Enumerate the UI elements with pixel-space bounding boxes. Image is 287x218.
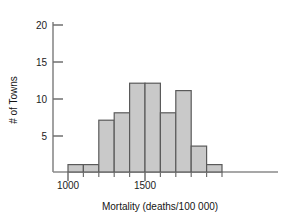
x-axis-title: Mortality (deaths/100 000) xyxy=(102,201,218,212)
histogram-bar xyxy=(207,165,222,172)
histogram-bar xyxy=(83,165,98,172)
y-tick-label-10: 10 xyxy=(36,94,48,105)
histogram-bar xyxy=(130,83,145,172)
histogram-bar xyxy=(114,113,129,172)
x-tick-label-1500: 1500 xyxy=(134,180,157,191)
y-tick-label-20: 20 xyxy=(36,20,48,31)
x-tick-label-1000: 1000 xyxy=(57,180,80,191)
histogram-bar xyxy=(68,165,83,172)
y-tick-label-5: 5 xyxy=(41,131,47,142)
histogram-bars xyxy=(68,83,222,172)
histogram-bar xyxy=(145,83,160,172)
y-tick-label-15: 15 xyxy=(36,57,48,68)
histogram-bar xyxy=(160,113,175,172)
y-axis-title: # of Towns xyxy=(8,76,19,124)
histogram-bar xyxy=(176,91,191,172)
histogram-figure: 20 15 10 5 1000 1500 Mortality (deaths/1… xyxy=(0,0,287,218)
histogram-plot: 20 15 10 5 1000 1500 Mortality (deaths/1… xyxy=(0,0,287,218)
histogram-bar xyxy=(99,120,114,172)
histogram-bar xyxy=(191,146,206,172)
